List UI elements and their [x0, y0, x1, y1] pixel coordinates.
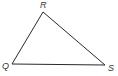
vertex-label-q: Q [2, 61, 9, 71]
triangle-diagram: R Q S [0, 0, 118, 76]
vertex-label-r: R [40, 0, 47, 10]
vertex-label-s: S [108, 63, 114, 73]
triangle-qrs [12, 12, 105, 65]
